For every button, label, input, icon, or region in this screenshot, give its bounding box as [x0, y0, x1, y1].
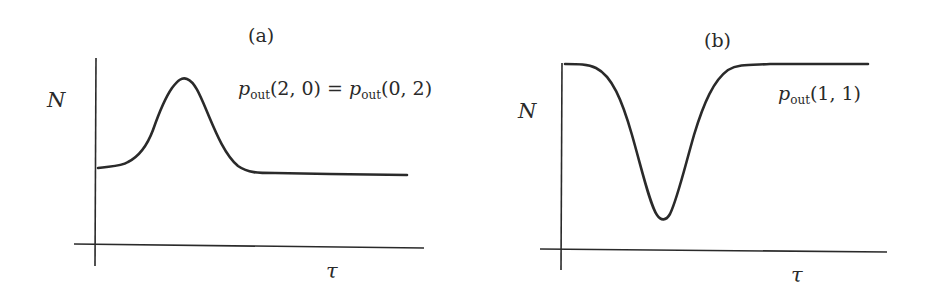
panel-a-y-axis [95, 58, 96, 266]
panel-a-x-label: τ [326, 259, 338, 283]
figure: (a) N τ pout(2, 0) = pout(0, 2) (b) N τ … [0, 0, 929, 298]
panel-a-label: (a) [248, 24, 274, 46]
panel-b: (b) N τ pout(1, 1) [517, 29, 887, 287]
panel-b-x-label: τ [791, 263, 803, 287]
panel-a-x-axis [74, 244, 424, 248]
panel-b-label: (b) [704, 29, 731, 51]
panel-b-y-axis [561, 63, 562, 270]
panel-b-x-axis [540, 249, 887, 252]
panel-a-y-label: N [46, 88, 66, 112]
panel-b-annotation: pout(1, 1) [778, 82, 861, 107]
panel-a: (a) N τ pout(2, 0) = pout(0, 2) [46, 24, 432, 283]
panel-b-y-label: N [517, 99, 537, 123]
panel-a-annotation: pout(2, 0) = pout(0, 2) [238, 77, 432, 102]
